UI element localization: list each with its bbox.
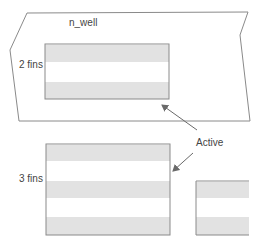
fin-stripe [46, 217, 170, 235]
n-well-region [10, 12, 250, 121]
fin-stripe [196, 217, 249, 235]
fin-stripe [45, 82, 169, 99]
arrow-to-3-fin-active [173, 153, 193, 171]
fin-stripe [196, 182, 249, 198]
active-region-partial [196, 181, 249, 235]
n-well-label: n_well [69, 17, 97, 28]
fin-stripe [46, 181, 170, 198]
active-region-2-fins [45, 44, 169, 99]
finfet-diagram: n_well 2 fins 3 fins Active [0, 0, 258, 243]
fin-stripe [46, 145, 170, 161]
diagram-svg: n_well 2 fins 3 fins Active [0, 0, 258, 243]
arrow-to-2-fin-active [162, 105, 197, 130]
active-region-3-fins [46, 144, 170, 235]
three-fins-label: 3 fins [19, 173, 43, 184]
two-fins-label: 2 fins [19, 59, 43, 70]
fin-stripe [45, 45, 169, 62]
active-label: Active [196, 137, 224, 148]
